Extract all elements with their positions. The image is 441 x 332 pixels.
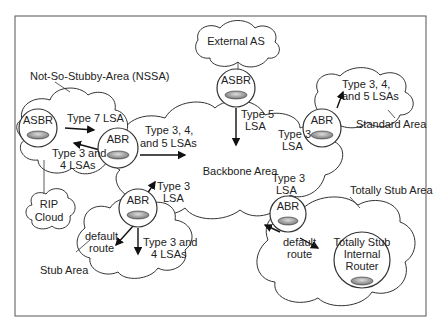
tstub-default-label: default: [283, 236, 316, 248]
svg-text:ABR: ABR: [277, 200, 300, 212]
standard-out-label-2: and 5 LSAs: [342, 90, 399, 102]
svg-text:ABR: ABR: [107, 133, 130, 145]
tstub-up-label: Type 3: [272, 172, 305, 184]
nssa-backbone-label: Type 3, 4,: [145, 124, 193, 136]
stub-abr-router: ABR: [119, 189, 157, 227]
type5-label: Type 5: [241, 108, 274, 120]
nssa-asbr-router: ASBR: [19, 109, 57, 147]
type7-label: Type 7 LSA: [67, 112, 125, 124]
rip-label-2: Cloud: [35, 211, 64, 223]
totally-stub-abr-router: ABR: [270, 196, 306, 232]
rip-label: RIP: [40, 198, 58, 210]
backbone-label: Backbone Area: [203, 165, 278, 177]
stub-default-label: default: [85, 230, 118, 242]
stub-area-label: Stub Area: [40, 264, 89, 276]
totally-stub-area-label: Totally Stub Area: [350, 184, 433, 196]
ospf-diagram: ASBR ABR ASBR ABR ABR ABR Totally Stub I…: [0, 0, 441, 332]
stub-type34-label: Type 3 and: [143, 236, 197, 248]
tstub-up-label-2: LSA: [276, 184, 297, 196]
svg-text:ASBR: ASBR: [23, 114, 53, 126]
svg-text:Router: Router: [345, 260, 378, 272]
stub-default-label-2: route: [89, 242, 114, 254]
stub-up-label: Type 3: [157, 180, 190, 192]
stub-type34-label-2: 4 LSAs: [151, 248, 187, 260]
svg-text:Internal: Internal: [344, 248, 381, 260]
totally-stub-internal-router: Totally Stub Internal Router: [334, 232, 391, 288]
tstub-default-label-2: route: [287, 248, 312, 260]
external-as-label: External AS: [207, 35, 264, 47]
type5-label-2: LSA: [245, 120, 266, 132]
nssa-type34-label-2: 4 LSAs: [60, 159, 96, 171]
svg-text:ABR: ABR: [127, 194, 150, 206]
nssa-label: Not-So-Stubby-Area (NSSA): [30, 70, 169, 82]
svg-text:ASBR: ASBR: [221, 74, 251, 86]
svg-text:ABR: ABR: [311, 114, 334, 126]
standard-area-label: Standard Area: [356, 118, 427, 130]
standard-in-label-2: LSA: [282, 140, 303, 152]
svg-text:Totally Stub: Totally Stub: [334, 236, 391, 248]
standard-in-label: Type 3: [278, 128, 311, 140]
backbone-asbr-router: ASBR: [217, 69, 255, 107]
standard-out-label: Type 3, 4,: [342, 78, 390, 90]
nssa-backbone-label-2: and 5 LSAs: [140, 137, 197, 149]
nssa-type34-label: Type 3 and: [52, 147, 106, 159]
stub-up-label-2: LSA: [163, 192, 184, 204]
